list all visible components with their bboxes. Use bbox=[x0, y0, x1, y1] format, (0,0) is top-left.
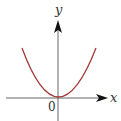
parabola-curve bbox=[22, 48, 96, 97]
parabola-graph: y x 0 bbox=[0, 0, 121, 121]
x-axis-label: x bbox=[110, 90, 118, 105]
y-axis-label: y bbox=[54, 2, 63, 17]
origin-label: 0 bbox=[48, 100, 56, 114]
